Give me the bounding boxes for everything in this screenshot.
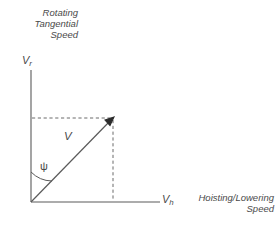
angle-psi-label: ψ <box>40 160 48 173</box>
vertical-axis-symbol: Vr <box>22 54 32 68</box>
angle-arc-psi <box>31 172 52 181</box>
horizontal-axis-caption-line-2: Speed <box>186 203 274 214</box>
horizontal-axis-caption-line-1: Hoisting/Lowering <box>186 192 274 203</box>
vertical-axis-caption-line-3: Speed <box>6 29 78 40</box>
vector-v-label: V <box>64 130 72 144</box>
vertical-axis-caption-line-1: Rotating <box>6 7 78 18</box>
horizontal-axis-symbol-subscript: h <box>169 198 173 207</box>
horizontal-axis-caption: Hoisting/Lowering Speed <box>186 192 274 214</box>
vertical-axis-caption: Rotating Tangential Speed <box>6 7 78 41</box>
vertical-axis-symbol-subscript: r <box>29 59 32 68</box>
vertical-axis-caption-line-2: Tangential <box>6 18 78 29</box>
velocity-vector-diagram: Rotating Tangential Speed Vr Vh Hoisting… <box>0 0 277 232</box>
horizontal-axis-symbol: Vh <box>162 193 174 207</box>
